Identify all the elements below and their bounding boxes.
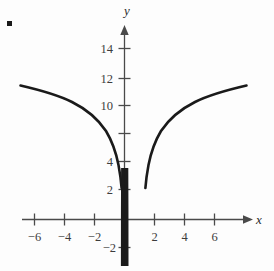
x-tick-label-6: 6 (211, 230, 217, 244)
y-tick-label-14: 14 (101, 42, 114, 56)
y-tick-label-12: 12 (101, 72, 114, 86)
x-tick-label--2: −2 (88, 230, 101, 244)
y-tick-label-10: 10 (101, 99, 114, 113)
x-tick-label--4: −4 (58, 230, 72, 244)
x-tick-label-2: 2 (151, 230, 157, 244)
y-axis-arrowhead (120, 25, 128, 35)
y-tick-label-2: 2 (107, 183, 113, 197)
curve-right-branch (145, 86, 246, 189)
x-tick-label--6: −6 (28, 230, 41, 244)
y-axis-title: y (122, 3, 130, 18)
figure-container: −6 −4 −2 2 4 6 14 12 10 4 2 −2 x y (0, 0, 274, 271)
y-tick-label-4: 4 (107, 155, 114, 169)
x-axis-title: x (255, 212, 262, 227)
x-tick-label-4: 4 (181, 230, 188, 244)
y-tick-label--2: −2 (103, 241, 116, 255)
x-axis-arrowhead (243, 215, 253, 223)
plot-canvas: −6 −4 −2 2 4 6 14 12 10 4 2 −2 x y (0, 0, 274, 271)
